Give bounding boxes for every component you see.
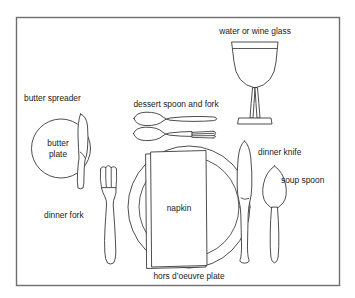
label-dinner-knife: dinner knife	[258, 147, 302, 157]
place-setting-diagram: water or wine glass butter plate butter …	[0, 0, 355, 298]
label-hors-doeuvre-plate: hors d’oeuvre plate	[153, 271, 225, 281]
wine-glass-foot	[238, 118, 272, 124]
label-dessert-spoon-and-fork: dessert spoon and fork	[133, 99, 219, 109]
label-dinner-fork: dinner fork	[44, 210, 84, 220]
label-butter-spreader: butter spreader	[24, 93, 81, 103]
dessert-fork-tine-4	[192, 137, 213, 138]
label-butter-plate-line1: butter	[47, 138, 69, 148]
label-water-or-wine-glass: water or wine glass	[218, 26, 291, 36]
place-setting-illustration: water or wine glass butter plate butter …	[0, 0, 355, 298]
label-napkin: napkin	[167, 203, 192, 213]
label-soup-spoon: soup spoon	[281, 175, 325, 185]
soup-spoon-handle	[270, 208, 279, 263]
label-butter-plate-line2: plate	[49, 149, 68, 159]
